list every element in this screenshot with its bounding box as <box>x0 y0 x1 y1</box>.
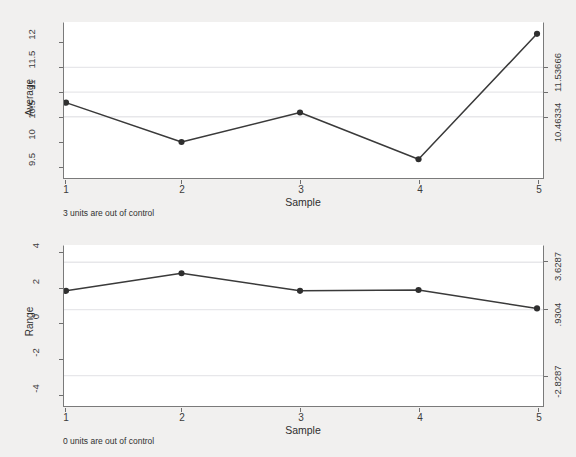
xbar-y-tick-11.5: 11.5 <box>26 45 37 75</box>
range-right-label-cl: .9304 <box>552 290 563 340</box>
range-x-tick-3: 3 <box>286 412 316 423</box>
range-y-tick-4: 4 <box>30 236 41 256</box>
xbar-y-tick-9.5: 9.5 <box>26 145 37 175</box>
xbar-right-label-lcl: 10.46334 <box>552 93 563 153</box>
range-x-axis-title: Sample <box>243 424 363 436</box>
range-y-tick--2: -2 <box>30 341 41 365</box>
range-out-of-control-caption: 0 units are out of control <box>63 436 154 446</box>
range-x-tick-1: 1 <box>51 412 81 423</box>
range-x-tick-4: 4 <box>405 412 435 423</box>
xbar-data-line <box>66 34 537 159</box>
xbar-x-tick-2: 2 <box>167 184 197 195</box>
range-chart-panel: Range -4 -2 0 2 4 <box>0 228 576 457</box>
xbar-x-tick-3: 3 <box>286 184 316 195</box>
range-right-tickmark-ucl <box>544 261 548 262</box>
xbar-x-tick-1: 1 <box>51 184 81 195</box>
range-right-label-lcl: -2.8287 <box>552 354 563 410</box>
xbar-data-point <box>415 156 421 162</box>
range-data-point <box>297 288 303 294</box>
range-y-tick-2: 2 <box>30 272 41 292</box>
range-x-tick-5: 5 <box>524 412 554 423</box>
range-data-point <box>534 305 540 311</box>
range-x-tick-2: 2 <box>167 412 197 423</box>
range-series-svg <box>64 246 543 406</box>
xbar-x-tick-5: 5 <box>524 184 554 195</box>
range-data-point <box>415 287 421 293</box>
xbar-chart-panel: Average 9.5 10 10.5 11 11.5 12 <box>0 0 576 228</box>
xbar-x-tick-4: 4 <box>405 184 435 195</box>
xbar-y-tick-10.5: 10.5 <box>26 95 37 125</box>
xbar-right-tickmark-cl <box>544 92 548 93</box>
xbar-data-point <box>64 100 69 106</box>
xbar-data-point <box>178 139 184 145</box>
range-data-point <box>178 270 184 276</box>
xbar-plot-area <box>63 22 544 179</box>
xbar-out-of-control-caption: 3 units are out of control <box>63 208 154 218</box>
range-y-tick--4: -4 <box>30 377 41 401</box>
range-right-tickmark-lcl <box>544 376 548 377</box>
xbar-right-tickmark-lcl <box>544 117 548 118</box>
range-y-tick-0: 0 <box>30 307 41 327</box>
xbar-y-tick-11: 11 <box>26 75 37 95</box>
xbar-series-svg <box>64 23 543 178</box>
xbar-y-tick-12: 12 <box>26 25 37 45</box>
range-data-point <box>64 288 69 294</box>
xbar-y-tick-10: 10 <box>26 125 37 145</box>
range-right-label-ucl: 3.6287 <box>552 240 563 294</box>
xbar-right-tickmark-ucl <box>544 67 548 68</box>
range-right-tickmark-cl <box>544 309 548 310</box>
xbar-data-point <box>297 109 303 115</box>
range-plot-area <box>63 245 544 407</box>
xbar-data-point <box>534 31 540 37</box>
xbar-x-axis-title: Sample <box>243 196 363 208</box>
control-chart-figure: Average 9.5 10 10.5 11 11.5 12 <box>0 0 576 457</box>
